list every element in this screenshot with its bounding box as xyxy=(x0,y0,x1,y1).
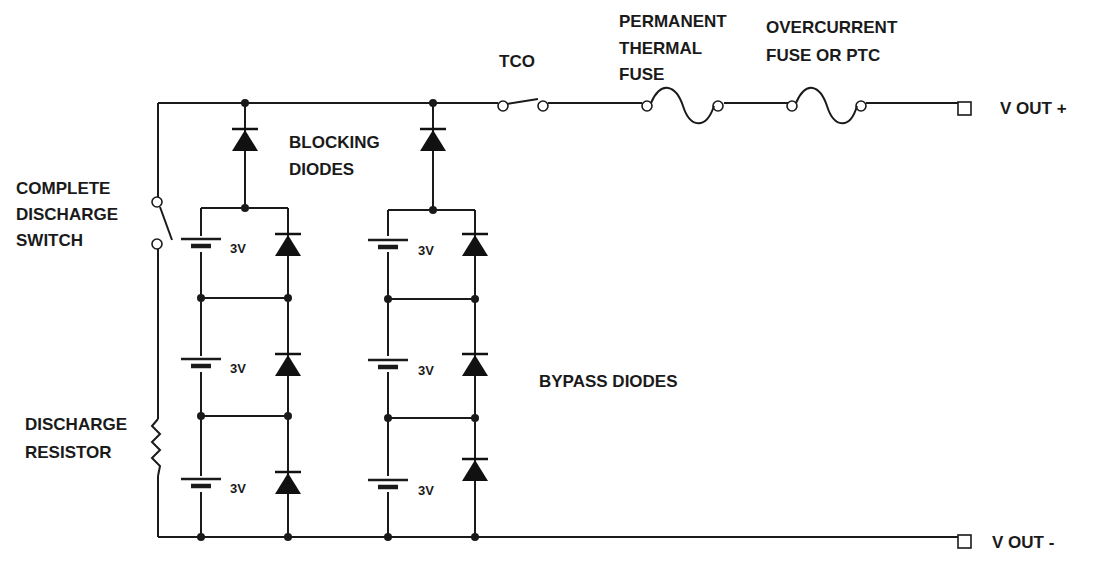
bypass-diode-icon xyxy=(462,459,488,481)
bottom-rail xyxy=(158,533,958,541)
tco-switch-icon xyxy=(498,99,548,111)
battery-cell-icon xyxy=(180,476,222,492)
svg-text:PERMANENT: PERMANENT xyxy=(619,12,727,31)
battery-cell-icon xyxy=(367,476,409,492)
bypass-diode-icon xyxy=(275,472,301,494)
cell-voltage-label: 3V xyxy=(230,241,246,256)
tco-label: TCO xyxy=(499,52,535,71)
battery-cell-icon xyxy=(180,236,222,252)
cell-string-2: 3V 3V 3V xyxy=(367,103,488,537)
thermal-fuse-label: PERMANENT THERMAL FUSE xyxy=(619,12,727,84)
bypass-diode-icon xyxy=(275,234,301,256)
top-rail xyxy=(158,99,958,107)
discharge-branch xyxy=(152,103,172,537)
cell-voltage-label: 3V xyxy=(418,483,434,498)
svg-text:SWITCH: SWITCH xyxy=(16,231,83,250)
discharge-switch-label: COMPLETE DISCHARGE SWITCH xyxy=(16,179,118,250)
overcurrent-fuse-icon xyxy=(787,88,866,123)
svg-text:OVERCURRENT: OVERCURRENT xyxy=(766,18,898,37)
svg-text:DISCHARGE: DISCHARGE xyxy=(25,415,127,434)
cell-string-1: 3V 3V 3V xyxy=(180,103,301,537)
overcurrent-fuse-label: OVERCURRENT FUSE OR PTC xyxy=(766,18,898,65)
svg-text:COMPLETE: COMPLETE xyxy=(16,179,110,198)
cell-voltage-label: 3V xyxy=(418,363,434,378)
cell-voltage-label: 3V xyxy=(230,481,246,496)
svg-text:RESISTOR: RESISTOR xyxy=(25,443,112,462)
battery-cell-icon xyxy=(180,356,222,372)
cell-voltage-label: 3V xyxy=(230,361,246,376)
svg-text:FUSE OR PTC: FUSE OR PTC xyxy=(766,46,880,65)
bypass-diodes-label: BYPASS DIODES xyxy=(539,372,678,391)
bypass-diode-icon xyxy=(462,234,488,256)
svg-text:DISCHARGE: DISCHARGE xyxy=(16,205,118,224)
vout-minus-label: V OUT - xyxy=(992,533,1054,552)
svg-text:BLOCKING: BLOCKING xyxy=(289,133,380,152)
discharge-switch-icon xyxy=(152,197,172,249)
bypass-diode-icon xyxy=(275,354,301,376)
svg-text:FUSE: FUSE xyxy=(619,65,664,84)
blocking-diode-icon xyxy=(232,129,258,151)
bypass-diode-icon xyxy=(462,354,488,376)
blocking-diode-icon xyxy=(420,129,446,151)
battery-cell-icon xyxy=(367,236,409,252)
svg-text:DIODES: DIODES xyxy=(289,160,354,179)
blocking-diodes-label: BLOCKING DIODES xyxy=(289,133,380,179)
thermal-fuse-icon xyxy=(642,88,723,123)
discharge-resistor-label: DISCHARGE RESISTOR xyxy=(25,415,127,462)
cell-voltage-label: 3V xyxy=(418,243,434,258)
svg-text:THERMAL: THERMAL xyxy=(619,39,702,58)
discharge-resistor-icon xyxy=(152,419,160,476)
battery-protection-schematic: 3V 3V 3V xyxy=(0,0,1093,561)
vout-minus-terminal xyxy=(958,535,971,548)
vout-plus-terminal xyxy=(958,102,971,115)
battery-cell-icon xyxy=(367,356,409,372)
vout-plus-label: V OUT + xyxy=(1000,99,1067,118)
